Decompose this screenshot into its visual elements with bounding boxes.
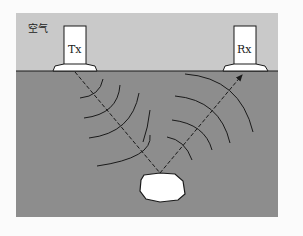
receiver-label: Rx [237,43,252,56]
air-label: 空气 [28,22,48,34]
transmitter-label: Tx [68,43,82,56]
gpr-diagram: 空气 Tx Rx [0,0,303,236]
buried-object [140,173,185,202]
